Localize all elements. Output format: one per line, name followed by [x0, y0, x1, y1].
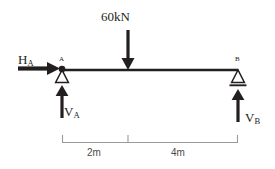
- dimension-line-group: [62, 135, 238, 143]
- vb-label-main: V: [245, 110, 254, 125]
- roller-triangle-b: [232, 70, 245, 82]
- va-label-main: V: [64, 104, 73, 119]
- va-label-subscript: A: [73, 110, 79, 120]
- va-arrowhead: [56, 85, 69, 96]
- beam-diagram-canvas: [0, 0, 275, 169]
- dimension-label-4m: 4m: [171, 148, 185, 158]
- node-b-label: B: [235, 56, 240, 63]
- horizontal-reaction-a-label: HA: [18, 53, 34, 66]
- point-load-arrow: [122, 30, 135, 70]
- beam-diagram: 60kN HA A B VA VB 2m 4m: [0, 0, 275, 169]
- ha-arrowhead: [47, 62, 60, 75]
- vb-label-subscript: B: [254, 116, 260, 126]
- point-load-label: 60kN: [101, 10, 130, 23]
- point-load-arrowhead: [122, 58, 135, 70]
- vertical-reaction-arrow-b: [232, 89, 245, 122]
- support-b-roller: [230, 70, 247, 85]
- vb-arrowhead: [232, 89, 245, 100]
- vertical-reaction-b-label: VB: [245, 111, 260, 124]
- ha-label-main: H: [18, 52, 27, 67]
- vertical-reaction-a-label: VA: [64, 105, 80, 118]
- ha-label-subscript: A: [27, 58, 33, 68]
- dimension-label-2m: 2m: [87, 148, 101, 158]
- node-a-label: A: [59, 56, 64, 63]
